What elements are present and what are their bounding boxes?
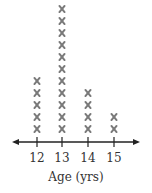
x-mark-icon [83,100,93,110]
tick-label-12: 12 [25,151,49,165]
axis-title: Age (yrs) [0,170,152,184]
x-mark-icon [57,76,67,86]
x-mark-icon [109,112,119,122]
dot-plot: 12131415 Age (yrs) [0,0,152,193]
right-arrow-icon [133,139,140,145]
x-mark-icon [83,88,93,98]
tick-label-15: 15 [102,151,126,165]
x-mark-icon [57,40,67,50]
x-mark-icon [32,76,42,86]
x-mark-icon [57,16,67,26]
x-mark-icon [57,112,67,122]
x-mark-icon [83,112,93,122]
x-mark-icon [83,124,93,134]
x-mark-icon [57,52,67,62]
x-mark-icon [57,124,67,134]
x-mark-icon [57,88,67,98]
x-mark-icon [109,124,119,134]
x-mark-icon [32,100,42,110]
tick-label-13: 13 [50,151,74,165]
x-mark-icon [57,4,67,14]
x-mark-icon [57,28,67,38]
x-mark-icon [57,64,67,74]
tick-label-14: 14 [76,151,100,165]
x-mark-icon [32,112,42,122]
x-mark-icon [32,124,42,134]
x-mark-icon [57,100,67,110]
left-arrow-icon [12,139,19,145]
x-mark-icon [32,88,42,98]
